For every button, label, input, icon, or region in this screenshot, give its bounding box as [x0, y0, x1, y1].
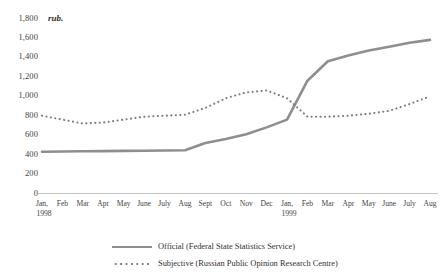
legend-label-subjective: Subjective (Russian Public Opinion Resea… — [158, 259, 338, 269]
x-axis-tick: Nov — [240, 199, 253, 209]
x-axis-tick: May — [117, 199, 131, 209]
x-axis-tick: May — [362, 199, 376, 209]
x-axis-tick: Apr — [97, 199, 109, 209]
legend-item-official: Official (Federal State Statistics Servi… — [0, 238, 444, 255]
chart-legend: Official (Federal State Statistics Servi… — [0, 238, 444, 272]
x-axis-tick: Feb — [302, 199, 313, 209]
x-axis-tick: Feb — [57, 199, 68, 209]
x-axis-tick: June — [382, 199, 396, 209]
x-axis-tick: July — [158, 199, 171, 209]
plot-area — [0, 0, 444, 278]
legend-line-dotted-icon — [112, 259, 152, 269]
x-axis-tick: Mar — [77, 199, 90, 209]
legend-line-solid-icon — [112, 242, 152, 252]
x-axis-tick: Aug — [178, 199, 191, 209]
x-axis-tick: Jan, — [36, 199, 48, 209]
x-axis-tick: Apr — [342, 199, 354, 209]
x-axis-tick: Oct — [220, 199, 231, 209]
series-line-subjective — [42, 90, 430, 123]
x-axis-tick: Dec — [261, 199, 273, 209]
chart-container: 1,8001,6001,4001,2001,0008006004002000 r… — [0, 0, 444, 278]
legend-label-official: Official (Federal State Statistics Servi… — [158, 242, 295, 252]
x-axis-tick: June — [137, 199, 151, 209]
x-axis-year-label: 1998 — [36, 209, 51, 219]
x-axis-tick: Sept — [199, 199, 213, 209]
x-axis-tick-labels: Jan,FebMarAprMayJuneJulyAugSeptOctNovDec… — [0, 199, 444, 213]
x-axis-tick: Mar — [322, 199, 335, 209]
x-axis-year-label: 1999 — [281, 209, 296, 219]
x-axis-tick: July — [403, 199, 416, 209]
legend-item-subjective: Subjective (Russian Public Opinion Resea… — [0, 255, 444, 272]
x-axis-tick: Jan, — [281, 199, 293, 209]
x-axis-tick: Aug — [423, 199, 436, 209]
